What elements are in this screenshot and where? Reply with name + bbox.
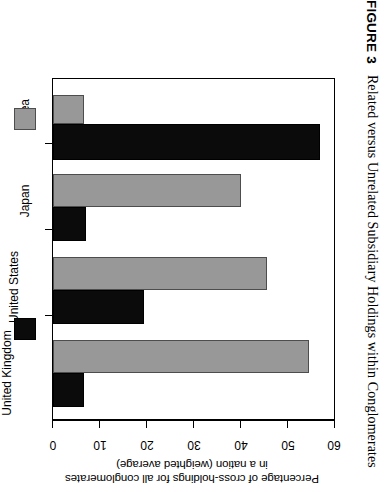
axis-tick-0 [52,420,53,428]
bar-united-states-related [53,257,267,290]
axis-tick-10 [99,420,100,428]
bar-japan-unrelated [53,207,86,241]
chart-figure: Percentage of cross-holdings for all con… [0,0,342,492]
figure-caption: FIGURE 3 Related versus Unrelated Subsid… [357,0,387,492]
bar-united-states-unrelated [53,290,144,324]
y-axis-title-line1: Percentage of cross-holdings for all con… [42,472,342,486]
bar-united-kingdom-unrelated [53,373,84,407]
bar-japan-related [53,174,241,207]
chart-legend: Related subsidiaries Unrelated subsidiar… [0,0,50,492]
bar-korea-unrelated [53,124,320,160]
tick-label-30: 30 [187,438,200,452]
figure-number: FIGURE 3 [365,0,380,64]
legend-swatch-related [14,108,36,130]
axis-tick-40 [240,420,241,428]
axis-tick-60 [334,420,335,428]
value-axis [42,420,342,430]
tick-label-50: 50 [281,438,294,452]
figure-page: Percentage of cross-holdings for all con… [0,0,387,492]
tick-label-10: 10 [93,438,106,452]
axis-tick-50 [287,420,288,428]
legend-item-related: Related subsidiaries [0,0,50,192]
value-axis-line [53,420,335,421]
figure-caption-text: Related versus Unrelated Subsidiary Hold… [364,75,380,468]
tick-label-20: 20 [140,438,153,452]
tick-label-60: 60 [327,438,340,452]
axis-tick-30 [193,420,194,428]
plot-area [52,78,335,420]
bar-united-kingdom-related [53,340,309,373]
legend-item-unrelated: Unrelated subsidiaries [0,202,50,402]
tick-label-0: 0 [50,438,57,452]
y-axis-title-line2: in a nation (weighted average) [42,458,342,472]
axis-tick-20 [146,420,147,428]
legend-swatch-unrelated [14,318,36,340]
bar-korea-related [53,95,84,124]
value-axis-tick-labels: 0 10 20 30 40 50 60 [42,436,342,452]
y-axis-title: Percentage of cross-holdings for all con… [42,458,342,486]
tick-label-40: 40 [234,438,247,452]
